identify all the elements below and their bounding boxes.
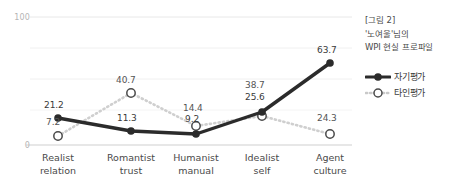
chart-figure: 100 0 21.2 11.3 9.2 25.6 63.7 7.2 40.7 1… [0, 0, 460, 187]
side-panel: [그림 2] '노여울'님의 WPI 현실 프로파일 자기평가 [362, 0, 460, 187]
x-axis-label-agent: Agent culture [294, 152, 366, 177]
point-label-other-0: 7.2 [46, 117, 60, 127]
point-label-self-3: 25.6 [245, 92, 265, 102]
point-label-other-2: 14.4 [183, 103, 203, 113]
figure-caption-line2: '노여울'님의 [365, 28, 433, 42]
legend-marker-open-circle-icon [365, 85, 391, 99]
x-axis-label-realist: Realist relation [22, 152, 94, 177]
chart-legend: 자기평가 타인평가 [365, 68, 460, 100]
x-axis-label-agent-line2: culture [294, 165, 366, 178]
x-axis-label-idealist-line1: Idealist [245, 152, 279, 163]
point-label-self-0: 21.2 [44, 100, 64, 110]
x-axis-label-romantist-line2: trust [95, 165, 167, 178]
legend-item-self: 자기평가 [365, 68, 460, 84]
x-axis-label-humanist-line2: manual [160, 165, 232, 178]
figure-caption-line3: WPI 현실 프로파일 [365, 41, 433, 55]
x-axis-label-idealist-line2: self [226, 165, 298, 178]
point-label-self-2: 9.2 [185, 114, 199, 124]
legend-label-other: 타인평가 [394, 86, 425, 99]
point-label-self-1: 11.3 [117, 113, 137, 123]
point-label-other-3: 38.7 [245, 80, 265, 90]
legend-item-other: 타인평가 [365, 84, 460, 100]
x-axis-label-humanist-line1: Humanist [173, 152, 219, 163]
legend-label-self: 자기평가 [394, 70, 425, 83]
point-label-other-4: 24.3 [317, 113, 337, 123]
x-axis-label-humanist: Humanist manual [160, 152, 232, 177]
legend-marker-filled-circle-icon [365, 69, 391, 83]
x-axis-label-romantist: Romantist trust [95, 152, 167, 177]
figure-caption-line1: [그림 2] [365, 14, 433, 28]
figure-caption: [그림 2] '노여울'님의 WPI 현실 프로파일 [365, 14, 433, 55]
gridlines [30, 17, 352, 110]
x-axis-label-realist-line1: Realist [42, 152, 74, 163]
point-label-other-1: 40.7 [116, 75, 136, 85]
x-axis-label-agent-line1: Agent [316, 152, 344, 163]
x-axis-label-romantist-line1: Romantist [107, 152, 155, 163]
x-axis-label-realist-line2: relation [22, 165, 94, 178]
x-axis-label-idealist: Idealist self [226, 152, 298, 177]
plot-area: 100 0 21.2 11.3 9.2 25.6 63.7 7.2 40.7 1… [0, 0, 360, 187]
y-axis-tick-100: 100 [8, 13, 30, 22]
point-label-self-4: 63.7 [317, 45, 337, 55]
y-axis-tick-0: 0 [8, 141, 30, 150]
